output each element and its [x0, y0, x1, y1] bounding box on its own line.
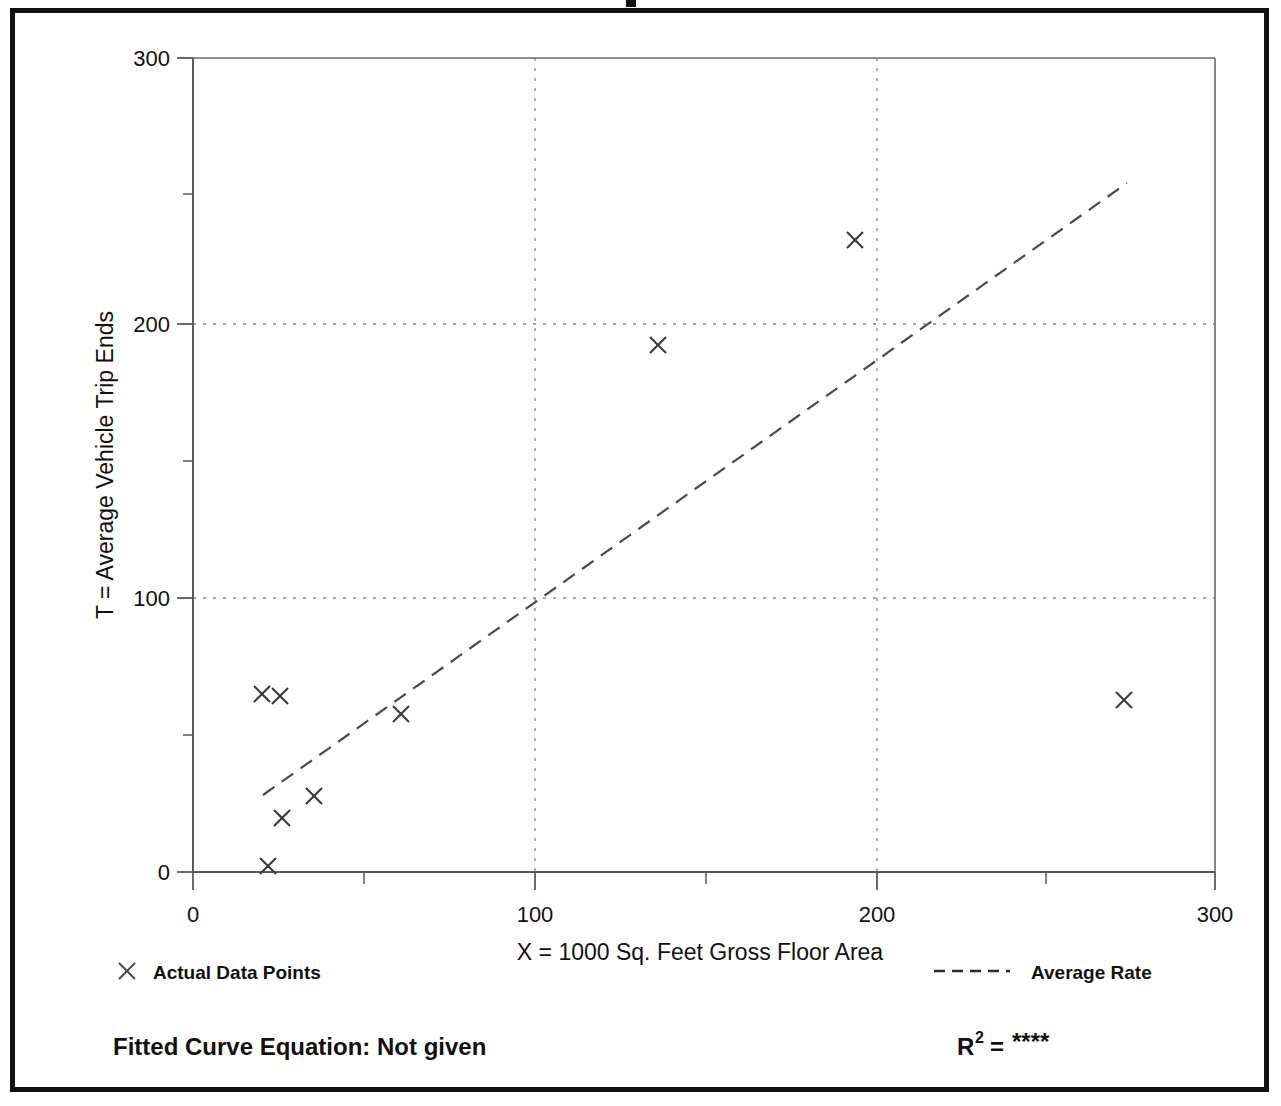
x-marker-icon: [119, 963, 135, 979]
x-tick-label-100: 100: [517, 902, 554, 927]
data-point-marker: [1116, 692, 1132, 708]
data-point-marker: [306, 788, 322, 804]
r2-equals-label: =: [990, 1033, 1004, 1060]
average-rate-trendline: [263, 183, 1127, 795]
legend-label-actual-data-points: Actual Data Points: [153, 962, 321, 983]
y-axis-ticks: [177, 58, 193, 872]
r2-exponent-label: 2: [975, 1029, 984, 1046]
data-points-group: [254, 232, 1132, 874]
data-point-marker: [254, 686, 270, 702]
plot-border: [193, 58, 1215, 872]
legend-label-average-rate: Average Rate: [1031, 962, 1152, 983]
data-point-marker: [393, 706, 409, 722]
y-axis-title: T = Average Vehicle Trip Ends: [92, 311, 118, 619]
legend: Actual Data Points Average Rate: [119, 962, 1152, 983]
data-point-marker: [274, 810, 290, 826]
gridlines: [193, 58, 1215, 872]
x-axis-title: X = 1000 Sq. Feet Gross Floor Area: [517, 939, 883, 965]
r2-base-label: R: [957, 1033, 974, 1060]
x-axis-ticks: [193, 872, 1215, 890]
data-point-marker: [650, 337, 666, 353]
footer: Fitted Curve Equation: Not given R 2 = *…: [113, 1028, 1050, 1060]
fitted-curve-equation-label: Fitted Curve Equation: Not given: [113, 1033, 486, 1060]
data-point-marker: [272, 688, 288, 704]
y-tick-label-100: 100: [133, 586, 170, 611]
x-tick-label-200: 200: [859, 902, 896, 927]
y-tick-label-0: 0: [158, 860, 170, 885]
y-tick-label-200: 200: [133, 312, 170, 337]
r2-value-label: ****: [1012, 1028, 1050, 1055]
data-point-marker: [847, 232, 863, 248]
chart-container: 300 200 100 0 0 100 200 300 T = Average …: [0, 0, 1281, 1106]
y-tick-label-300: 300: [133, 46, 170, 71]
x-tick-label-300: 300: [1197, 902, 1234, 927]
x-tick-label-0: 0: [187, 902, 199, 927]
axes: [193, 58, 1215, 872]
